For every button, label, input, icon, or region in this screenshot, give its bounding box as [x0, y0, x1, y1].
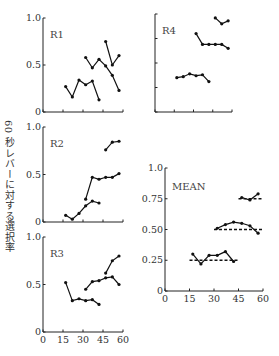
data-point: [248, 198, 251, 201]
data-point: [117, 140, 120, 143]
x-tick-label: 60: [117, 334, 129, 345]
series-line: [66, 201, 99, 219]
data-point: [257, 192, 260, 195]
data-point: [111, 74, 114, 77]
data-point: [64, 214, 67, 217]
y-tick-label: 0.25: [142, 254, 163, 265]
y-tick-label: 0.5: [26, 169, 41, 180]
data-point: [97, 58, 100, 61]
data-point: [257, 232, 260, 235]
data-point: [207, 80, 210, 83]
x-tick-label: 30: [77, 334, 89, 345]
series-line: [177, 74, 209, 82]
series-line: [66, 283, 99, 305]
data-point: [201, 43, 204, 46]
data-point: [104, 272, 107, 275]
data-point: [214, 16, 217, 19]
y-tick-label: 1.0: [26, 12, 41, 23]
figure-panels: 00.51.0R1R400.51.0R201530456000.250.500.…: [0, 0, 279, 356]
x-tick-label: 45: [97, 334, 109, 345]
data-point: [224, 250, 227, 253]
panel-title: MEAN: [172, 181, 206, 192]
data-point: [104, 276, 107, 279]
y-tick-label: 0.5: [26, 59, 41, 70]
data-point: [207, 43, 210, 46]
data-point: [91, 79, 94, 82]
y-tick-label: 0.75: [142, 193, 163, 204]
chart-panel-r3: 01530456000.51.0R3: [26, 231, 129, 345]
series-line: [86, 277, 119, 289]
data-point: [97, 178, 100, 181]
data-point: [104, 176, 107, 179]
data-point: [91, 66, 94, 69]
data-point: [91, 200, 94, 203]
panel-title: R2: [50, 138, 64, 149]
data-point: [104, 40, 107, 43]
chart-panel-r1: 00.51.0R1: [26, 12, 123, 117]
panel-title: R4: [162, 25, 176, 36]
data-point: [220, 22, 223, 25]
data-point: [84, 198, 87, 201]
x-tick-label: 30: [208, 293, 220, 304]
series-line: [217, 222, 258, 233]
data-point: [227, 19, 230, 22]
data-point: [194, 74, 197, 77]
y-tick-label: 1.0: [26, 121, 41, 132]
series-line: [106, 256, 119, 273]
data-point: [104, 64, 107, 67]
panel-title: R3: [50, 248, 64, 259]
data-point: [64, 281, 67, 284]
chart-panel-mean: 01530456000.250.500.751.0MEAN: [142, 162, 269, 304]
data-point: [111, 63, 114, 66]
data-point: [214, 43, 217, 46]
data-point: [199, 262, 202, 265]
data-point: [191, 253, 194, 256]
data-point: [71, 218, 74, 221]
series-line: [66, 80, 99, 100]
data-point: [84, 288, 87, 291]
data-point: [71, 95, 74, 98]
data-point: [117, 54, 120, 57]
data-point: [77, 212, 80, 215]
data-point: [77, 78, 80, 81]
data-point: [216, 254, 219, 257]
data-point: [97, 201, 100, 204]
data-point: [71, 299, 74, 302]
y-tick-label: 1.0: [148, 162, 163, 173]
series-line: [196, 34, 228, 49]
y-tick-label: 0.50: [142, 224, 163, 235]
data-point: [97, 98, 100, 101]
x-tick-label: 15: [57, 334, 69, 345]
data-point: [84, 56, 87, 59]
data-point: [111, 259, 114, 262]
data-point: [201, 73, 204, 76]
series-line: [106, 42, 119, 66]
data-point: [194, 32, 197, 35]
x-tick-label: 15: [183, 293, 195, 304]
data-point: [111, 275, 114, 278]
data-point: [248, 224, 251, 227]
data-point: [97, 279, 100, 282]
data-point: [232, 221, 235, 224]
data-point: [188, 72, 191, 75]
data-point: [64, 85, 67, 88]
y-tick-label: 0: [35, 216, 41, 227]
data-point: [77, 297, 80, 300]
data-point: [208, 254, 211, 257]
series-line: [193, 252, 234, 264]
data-point: [240, 196, 243, 199]
y-tick-label: 0.5: [26, 279, 41, 290]
data-point: [97, 303, 100, 306]
data-point: [224, 223, 227, 226]
data-point: [91, 280, 94, 283]
data-point: [91, 298, 94, 301]
panel-title: R1: [50, 29, 64, 40]
y-tick-label: 0: [35, 326, 41, 337]
y-tick-label: 0: [157, 285, 163, 296]
data-point: [227, 47, 230, 50]
data-point: [91, 176, 94, 179]
data-point: [117, 89, 120, 92]
data-point: [117, 254, 120, 257]
data-point: [216, 227, 219, 230]
y-tick-label: 1.0: [26, 231, 41, 242]
